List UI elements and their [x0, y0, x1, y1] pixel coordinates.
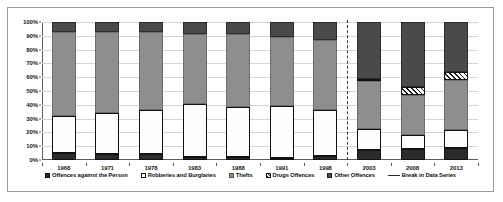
legend-item-label: Offences against the Person: [52, 172, 128, 178]
bar-segment-theft[interactable]: [401, 95, 425, 135]
bar-segment-person[interactable]: [313, 156, 337, 160]
legend-swatch-drugs-offences: [266, 173, 271, 178]
bar-2013[interactable]: [444, 22, 468, 160]
bar-1968[interactable]: [52, 22, 76, 160]
bar-segment-other[interactable]: [357, 22, 381, 79]
bar-segment-person[interactable]: [401, 149, 425, 160]
y-axis-tick: [39, 146, 41, 147]
bar-segment-robbery[interactable]: [95, 113, 119, 154]
bar-segment-theft[interactable]: [52, 32, 76, 116]
plot-area: [42, 22, 478, 160]
y-axis-tick-label: 70%: [26, 60, 38, 66]
legend-swatch-break-in-data-series: [388, 175, 400, 176]
chart-frame: 0%10%20%30%40%50%60%70%80%90%100% 196819…: [7, 7, 494, 192]
bar-segment-other[interactable]: [313, 22, 337, 40]
bar-segment-theft[interactable]: [444, 80, 468, 130]
y-axis-tick: [39, 49, 41, 50]
bar-1988[interactable]: [226, 22, 250, 160]
bar-segment-theft[interactable]: [226, 34, 250, 107]
bar-segment-theft[interactable]: [313, 40, 337, 110]
bar-segment-theft[interactable]: [95, 32, 119, 113]
bar-segment-robbery[interactable]: [183, 104, 207, 156]
y-axis-tick: [39, 35, 41, 36]
legend-item[interactable]: Other Offences: [327, 172, 374, 178]
bar-2003[interactable]: [357, 22, 381, 160]
bar-1998[interactable]: [313, 22, 337, 160]
y-axis-tick-label: 20%: [26, 129, 38, 135]
chart-screenshot: 0%10%20%30%40%50%60%70%80%90%100% 196819…: [0, 0, 503, 202]
y-axis-tick: [39, 132, 41, 133]
bar-segment-drugs[interactable]: [401, 87, 425, 95]
bar-segment-person[interactable]: [270, 158, 294, 160]
y-axis-tick: [39, 160, 41, 161]
legend-swatch-offences-against-the-person: [45, 173, 50, 178]
bar-segment-robbery[interactable]: [357, 129, 381, 150]
bar-segment-robbery[interactable]: [401, 135, 425, 149]
y-axis-tick-label: 30%: [26, 116, 38, 122]
plot-inner: [42, 22, 478, 160]
break-in-data-series-line: [347, 20, 348, 160]
chart-legend: Offences against the PersonRobberies and…: [16, 166, 485, 184]
y-axis-tick-label: 60%: [26, 74, 38, 80]
legend-item[interactable]: Thefts: [229, 172, 253, 178]
bar-1991[interactable]: [270, 22, 294, 160]
y-axis-tick: [39, 104, 41, 105]
y-axis-tick: [39, 63, 41, 64]
legend-swatch-thefts: [229, 173, 234, 178]
legend-item[interactable]: Robberies and Burglaries: [141, 172, 216, 178]
bar-segment-other[interactable]: [401, 22, 425, 87]
legend-swatch-other-offences: [327, 173, 332, 178]
bar-segment-person[interactable]: [226, 157, 250, 160]
y-axis-tick: [39, 22, 41, 23]
y-axis-tick-label: 90%: [26, 33, 38, 39]
y-axis-tick-label: 0%: [30, 157, 38, 163]
y-axis-tick-label: 50%: [26, 88, 38, 94]
y-axis-tick-label: 80%: [26, 47, 38, 53]
bar-segment-theft[interactable]: [270, 37, 294, 106]
bar-segment-robbery[interactable]: [444, 130, 468, 148]
legend-item[interactable]: Offences against the Person: [45, 172, 128, 178]
bar-1971[interactable]: [95, 22, 119, 160]
bar-segment-theft[interactable]: [357, 81, 381, 129]
bar-segment-person[interactable]: [95, 154, 119, 160]
legend-item[interactable]: Drugs Offences: [266, 172, 315, 178]
legend-item-label: Robberies and Burglaries: [148, 172, 216, 178]
bar-segment-theft[interactable]: [139, 32, 163, 111]
bar-segment-other[interactable]: [444, 22, 468, 72]
bar-segment-person[interactable]: [183, 157, 207, 160]
y-axis-tick: [39, 77, 41, 78]
legend-swatch-robberies-and-burglaries: [141, 173, 146, 178]
legend-item-label: Drugs Offences: [273, 172, 315, 178]
bar-segment-robbery[interactable]: [313, 110, 337, 156]
bar-segment-drugs[interactable]: [357, 79, 381, 82]
bar-segment-drugs[interactable]: [444, 72, 468, 80]
legend-item-label: Thefts: [236, 172, 253, 178]
bar-segment-robbery[interactable]: [270, 106, 294, 158]
bar-segment-person[interactable]: [357, 150, 381, 160]
bar-segment-other[interactable]: [226, 22, 250, 34]
bar-segment-person[interactable]: [52, 153, 76, 160]
y-axis-tick-label: 40%: [26, 102, 38, 108]
bar-segment-robbery[interactable]: [52, 116, 76, 153]
bar-segment-other[interactable]: [52, 22, 76, 32]
y-axis: 0%10%20%30%40%50%60%70%80%90%100%: [15, 22, 41, 160]
bar-segment-person[interactable]: [444, 148, 468, 160]
bar-1983[interactable]: [183, 22, 207, 160]
bar-segment-other[interactable]: [183, 22, 207, 34]
bar-segment-other[interactable]: [270, 22, 294, 36]
bar-segment-other[interactable]: [95, 22, 119, 32]
bar-1978[interactable]: [139, 22, 163, 160]
legend-item-label: Other Offences: [334, 172, 374, 178]
y-axis-tick: [39, 91, 41, 92]
bar-segment-theft[interactable]: [183, 34, 207, 104]
y-axis-tick-label: 10%: [26, 143, 38, 149]
bar-segment-person[interactable]: [139, 154, 163, 160]
bar-2008[interactable]: [401, 22, 425, 160]
bar-segment-robbery[interactable]: [139, 110, 163, 154]
bar-segment-robbery[interactable]: [226, 107, 250, 157]
legend-item-label: Break in Data Series: [402, 172, 456, 178]
legend-item[interactable]: Break in Data Series: [388, 172, 456, 178]
bar-segment-other[interactable]: [139, 22, 163, 32]
y-axis-tick-label: 100%: [23, 19, 38, 25]
y-axis-tick: [39, 118, 41, 119]
